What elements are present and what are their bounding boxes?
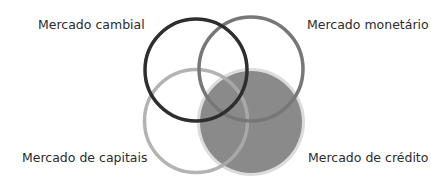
label-mercado-monetario: Mercado monetário xyxy=(307,17,429,32)
label-mercado-de-capitais: Mercado de capitais xyxy=(22,150,148,165)
label-mercado-cambial: Mercado cambial xyxy=(38,17,145,32)
label-mercado-de-credito: Mercado de crédito xyxy=(308,150,428,165)
